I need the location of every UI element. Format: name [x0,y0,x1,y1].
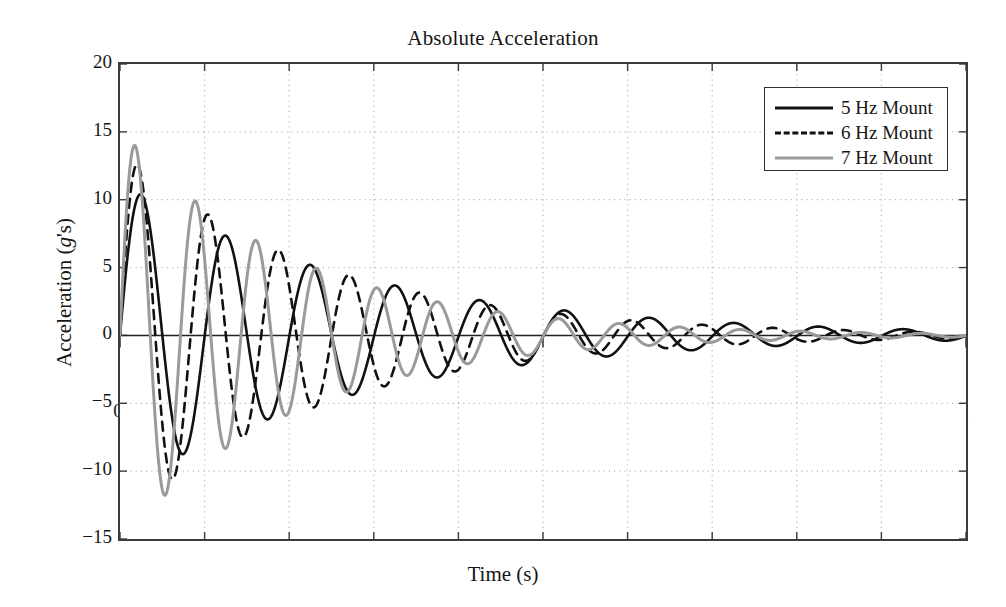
y-axis-tick-labels: 20151050−5−10−15 [52,62,112,541]
legend-item[interactable]: 6 Hz Mount [765,119,949,147]
legend-label: 5 Hz Mount [841,97,933,119]
y-tick-label: 5 [56,255,112,277]
y-tick-label: −5 [56,390,112,412]
chart-figure: Absolute Acceleration Acceleration (g's)… [0,0,1006,607]
y-tick-label: 10 [56,187,112,209]
legend: 5 Hz Mount6 Hz Mount7 Hz Mount [764,87,948,171]
legend-line-swatch [775,101,833,115]
y-tick-label: −15 [56,526,112,548]
legend-line-swatch [775,151,833,165]
y-tick-label: 0 [56,322,112,344]
chart-title: Absolute Acceleration [0,26,1006,51]
y-tick-label: −10 [56,458,112,480]
legend-line [775,107,833,110]
x-axis-title: Time (s) [0,562,1006,587]
legend-item[interactable]: 7 Hz Mount [765,144,949,172]
legend-label: 7 Hz Mount [841,147,933,169]
y-tick-label: 15 [56,119,112,141]
legend-label: 6 Hz Mount [841,122,933,144]
legend-line [775,157,833,160]
legend-line-swatch [775,126,833,140]
series-line [120,145,966,495]
legend-line [775,132,833,135]
y-tick-label: 20 [56,51,112,73]
legend-item[interactable]: 5 Hz Mount [765,94,949,122]
series-line [120,164,966,479]
